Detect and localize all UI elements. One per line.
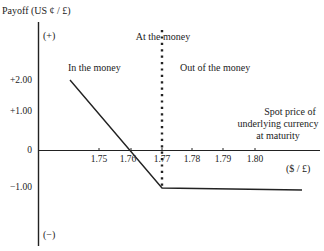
out-of-the-money-label: Out of the money [180,62,250,73]
x-tick-180: 1.80 [247,154,264,164]
y-tick-zero: 0 [0,145,32,155]
at-the-money-label: At the money [136,31,190,42]
x-tick-175: 1.75 [91,154,108,164]
positive-label: (+) [43,30,55,41]
negative-label: (−) [43,229,55,240]
y-axis-title: Payoff (US ¢ / £) [2,5,71,16]
x-tick-178: 1.78 [184,154,201,164]
in-the-money-label: In the money [68,62,121,73]
spot-label-line2: underlying currency [238,118,319,129]
y-tick-minus1: −1.00 [0,182,32,192]
x-unit-label: ($ / £) [286,163,310,174]
x-tick-176: 1.76 [120,154,137,164]
x-tick-179: 1.79 [215,154,232,164]
spot-label-line1: Spot price of [264,106,316,117]
spot-label-line3: at maturity [256,130,300,141]
y-tick-plus1: +1.00 [0,106,32,116]
x-tick-177: 1.77 [154,154,171,164]
y-tick-plus2: +2.00 [0,75,32,85]
